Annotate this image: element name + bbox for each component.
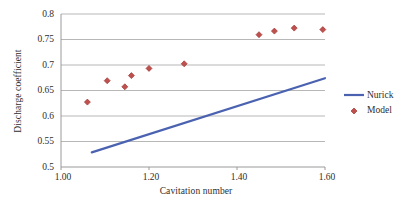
- data-point: [291, 25, 297, 31]
- data-point: [320, 27, 326, 33]
- data-point: [128, 73, 134, 79]
- chart-container: Discharge coefficient Cavitation number …: [0, 0, 406, 207]
- data-point: [104, 78, 110, 84]
- data-point: [256, 32, 262, 38]
- gridlines: [61, 14, 325, 142]
- legend-diamond-swatch: [351, 108, 357, 114]
- data-point: [271, 28, 277, 34]
- data-point: [181, 61, 187, 67]
- legend-item-nurick: Nurick: [367, 90, 393, 100]
- data-point: [84, 99, 90, 105]
- legend-item-model: Model: [367, 105, 392, 115]
- data-point: [146, 65, 152, 71]
- plot-area: [0, 0, 406, 207]
- data-point: [122, 84, 128, 90]
